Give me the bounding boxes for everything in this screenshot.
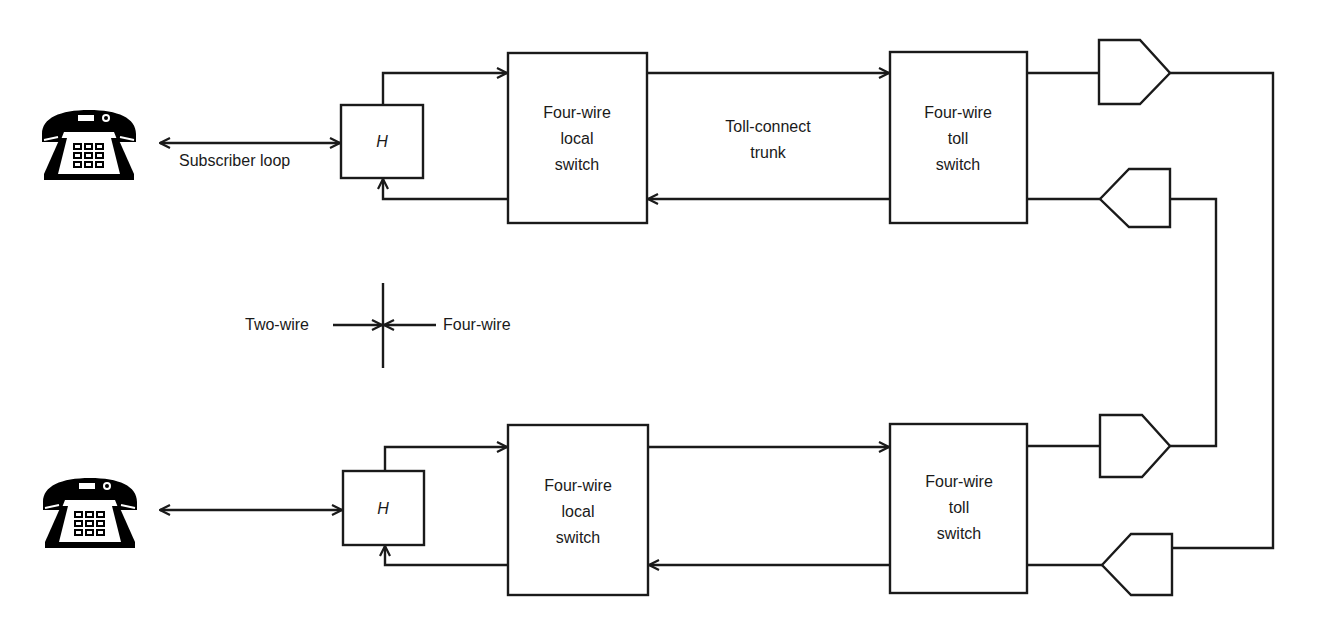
telephone-icon-top <box>42 110 136 180</box>
long-haul-line-east <box>1170 73 1273 548</box>
diagram-canvas: Subscriber loop H Four-wire local switch… <box>0 0 1317 631</box>
amplifier-top-west <box>1100 169 1170 227</box>
hybrid-to-local-line-top <box>383 73 507 105</box>
local-to-hybrid-line-top <box>383 179 508 199</box>
long-haul-line-west <box>1170 199 1216 446</box>
local-switch-label-top: Four-wire local switch <box>543 100 611 178</box>
trunk-label: Toll-connect trunk <box>725 114 810 166</box>
hybrid-label-bottom: H <box>377 497 389 521</box>
toll-switch-label-bottom: Four-wire toll switch <box>925 469 993 547</box>
local-switch-label-bottom: Four-wire local switch <box>544 473 612 551</box>
toll-switch-label-top: Four-wire toll switch <box>924 100 992 178</box>
telephone-icon-bottom <box>43 478 137 548</box>
amplifier-bottom-west <box>1102 534 1172 595</box>
hybrid-label-top: H <box>376 130 388 154</box>
local-to-hybrid-line-bottom <box>385 546 508 565</box>
amplifier-bottom-east <box>1100 415 1170 477</box>
diagram-svg <box>0 0 1317 631</box>
legend-two-wire-label: Two-wire <box>245 313 309 337</box>
hybrid-to-local-line-bottom <box>385 447 507 471</box>
amplifier-top-east <box>1099 40 1170 104</box>
legend-four-wire-label: Four-wire <box>443 313 511 337</box>
subscriber-loop-label: Subscriber loop <box>179 149 290 173</box>
